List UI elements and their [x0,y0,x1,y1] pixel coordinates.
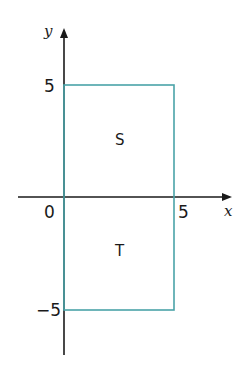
y-tick-5: 5 [44,76,55,96]
region-label-t: T [114,242,125,260]
y-axis-label: y [43,22,53,40]
region-label-s: S [115,131,125,149]
x-axis-label: x [224,202,233,220]
y-axis-arrow-icon [60,28,68,38]
y-tick-neg5: −5 [36,300,61,320]
coordinate-diagram: x y 0 5 5 −5 S T [0,0,250,366]
x-axis-arrow-icon [222,193,232,201]
x-tick-5: 5 [178,202,189,222]
x-tick-0: 0 [44,202,55,222]
